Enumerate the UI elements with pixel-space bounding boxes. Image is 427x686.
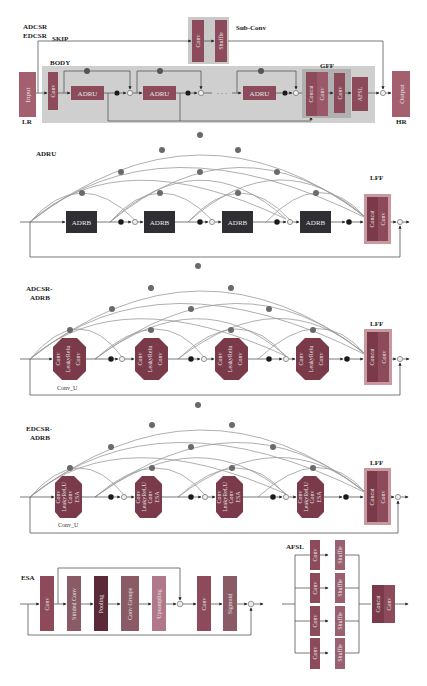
svg-text:Conv: Conv xyxy=(312,614,318,627)
esa-block-4: Conv LeakyReLU Conv ESA xyxy=(297,476,324,518)
svg-text:Conv: Conv xyxy=(318,352,324,365)
octagon-block-3: Conv LeakyRelu Conv xyxy=(215,338,248,380)
output-text: Output xyxy=(398,84,406,104)
svg-text:Strided Conv: Strided Conv xyxy=(71,588,77,620)
svg-text:Conv Groups: Conv Groups xyxy=(127,587,133,620)
svg-text:Upsampling: Upsampling xyxy=(156,589,162,618)
svg-text:Conv: Conv xyxy=(75,352,81,365)
svg-text:Sigmoid: Sigmoid xyxy=(227,594,233,614)
sub-conv-shuffle-text: Shuffle xyxy=(218,32,224,50)
svg-text:Concat: Concat xyxy=(369,210,375,227)
svg-text:Conv: Conv xyxy=(217,352,223,365)
svg-text:ADRB: ADRB xyxy=(72,219,92,227)
svg-text:Conv: Conv xyxy=(44,597,50,610)
svg-text:Conv: Conv xyxy=(309,490,315,503)
esa-block-2: Conv LeakyReLU Conv ESA xyxy=(135,476,162,518)
svg-text:Conv: Conv xyxy=(137,352,143,365)
adru-title: ADRU xyxy=(36,150,56,158)
svg-text:ADRB: ADRB xyxy=(150,219,170,227)
adcsr-lff-label: LFF xyxy=(370,320,383,328)
gff-concat-text: Concat xyxy=(308,85,314,102)
svg-text:Concat: Concat xyxy=(369,488,375,505)
adru-text-1: ADRU xyxy=(78,90,98,98)
svg-text:Concat: Concat xyxy=(375,595,381,612)
edcsr-adrb-detail: EDCSR- ADRB Conv LeakyReLU Conv ESA Conv… xyxy=(20,402,408,533)
svg-text:LeakyRelu: LeakyRelu xyxy=(65,346,71,372)
esa-detail: ESA Conv Strided Conv Pooling Conv Group… xyxy=(20,568,263,635)
edcsr-lff-label: LFF xyxy=(370,459,383,467)
adru-text-n: ADRU xyxy=(250,90,270,98)
svg-text:ESA: ESA xyxy=(154,491,160,503)
label-adcsr: ADCSR xyxy=(23,23,48,31)
esa-title: ESA xyxy=(21,574,35,582)
octagon-block-1: Conv LeakyRelu Conv xyxy=(53,338,86,380)
afsl-title: AFSL xyxy=(286,543,304,551)
afsl-detail: AFSL Conv Shuffle Conv Shuffle Conv Shuf… xyxy=(282,540,408,669)
afsl-row-1: Conv Shuffle xyxy=(295,540,359,570)
svg-text:ESA: ESA xyxy=(235,491,241,503)
afsl-row-3: Conv Shuffle xyxy=(295,606,359,636)
svg-text:Conv: Conv xyxy=(312,646,318,659)
input-text: Input xyxy=(24,88,32,103)
afsl-text: AFSL xyxy=(357,86,363,101)
svg-text:Conv: Conv xyxy=(237,352,243,365)
esa-block-1: Conv LeakyReLU Conv ESA xyxy=(55,476,82,518)
svg-text:Shuffle: Shuffle xyxy=(337,612,343,630)
edcsr-adrb-title-1: EDCSR- xyxy=(26,425,53,433)
edcsr-caption: Conv_U xyxy=(58,522,79,528)
label-edcsr: EDCSR xyxy=(23,32,48,40)
adcsr-adrb-title-2: ADRB xyxy=(30,294,50,302)
svg-text:LeakyRelu: LeakyRelu xyxy=(147,346,153,372)
svg-text:Conv: Conv xyxy=(228,490,234,503)
svg-text:Conv: Conv xyxy=(312,581,318,594)
label-skip: SKIP xyxy=(52,35,69,43)
svg-text:LeakyRelu: LeakyRelu xyxy=(308,346,314,372)
afsl-row-2: Conv Shuffle xyxy=(295,573,359,603)
svg-text:Conv: Conv xyxy=(298,352,304,365)
label-body: BODY xyxy=(50,59,70,67)
adcsr-adrb-title-1: ADCSR- xyxy=(26,285,53,293)
esa-block-3: Conv LeakyReLU Conv ESA xyxy=(216,476,243,518)
octagon-block-2: Conv LeakyRelu Conv xyxy=(135,338,168,380)
label-gff: GFF xyxy=(320,62,334,70)
gff-conv-text: Conv xyxy=(319,87,325,100)
svg-text:ESA: ESA xyxy=(74,491,80,503)
svg-text:ESA: ESA xyxy=(316,491,322,503)
adru-text-2: ADRU xyxy=(150,90,170,98)
svg-text:Conv: Conv xyxy=(67,490,73,503)
overall-network: ADCSR EDCSR SKIP Conv Shuffle Sub-Conv B… xyxy=(19,17,410,126)
svg-text:Conv: Conv xyxy=(312,548,318,561)
head-conv-text: Conv xyxy=(50,84,56,97)
afsl-row-4: Conv Shuffle xyxy=(295,638,359,669)
svg-text:Conv: Conv xyxy=(147,490,153,503)
adcsr-caption: Conv_U xyxy=(57,385,78,391)
adcsr-adrb-detail: ADCSR- ADRB Conv LeakyRelu Conv Conv_U xyxy=(20,263,409,395)
label-lr: LR xyxy=(22,118,33,126)
svg-text:Conv: Conv xyxy=(201,597,207,610)
svg-text:Shuffle: Shuffle xyxy=(337,579,343,597)
ellipsis: · · · xyxy=(217,90,228,98)
svg-text:Pooling: Pooling xyxy=(98,595,104,614)
svg-text:Conv: Conv xyxy=(380,490,386,503)
label-sub-conv: Sub-Conv xyxy=(236,24,266,32)
svg-text:Conv: Conv xyxy=(386,597,392,610)
svg-text:Conv: Conv xyxy=(381,350,387,363)
label-hr: HR xyxy=(396,118,407,126)
svg-text:Conv: Conv xyxy=(380,212,386,225)
svg-text:Conv: Conv xyxy=(55,352,61,365)
gff-conv2-text: Conv xyxy=(337,86,343,99)
architecture-diagram: ADCSR EDCSR SKIP Conv Shuffle Sub-Conv B… xyxy=(0,0,427,686)
svg-text:Shuffle: Shuffle xyxy=(337,644,343,662)
svg-text:Shuffle: Shuffle xyxy=(337,546,343,564)
svg-text:ADRB: ADRB xyxy=(306,219,326,227)
svg-text:Conv: Conv xyxy=(157,352,163,365)
sub-conv-conv-text: Conv xyxy=(195,34,201,47)
svg-text:LeakyRelu: LeakyRelu xyxy=(227,346,233,372)
octagon-block-4: Conv LeakyRelu Conv xyxy=(296,338,329,380)
svg-text:ADRB: ADRB xyxy=(228,219,248,227)
edcsr-adrb-title-2: ADRB xyxy=(30,434,50,442)
adru-detail: ADRU ADRB ADRB ADRB xyxy=(20,132,409,257)
svg-text:Concat: Concat xyxy=(369,348,375,365)
adru-lff-label: LFF xyxy=(370,174,383,182)
